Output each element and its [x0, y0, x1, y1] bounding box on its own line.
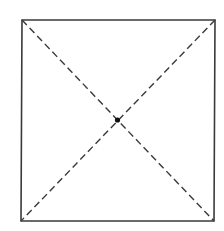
square-diagonals-diagram [0, 0, 224, 231]
center-point-dot [115, 117, 120, 122]
